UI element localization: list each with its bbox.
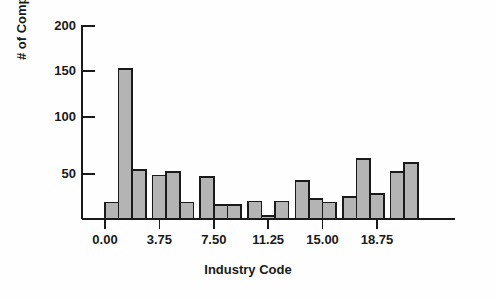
histogram-bar [227,205,241,219]
x-tick-label: 15.00 [306,232,339,247]
histogram-bar [357,159,371,218]
histogram-bar [370,194,384,218]
histogram-bar [153,175,167,218]
x-tick-label: 0.00 [92,232,117,247]
x-tick-label: 18.75 [361,232,394,247]
x-tick-label: 3.75 [147,232,172,247]
histogram-bar [343,197,357,219]
histogram-bar [200,177,214,218]
histogram-figure: # of Companies 200 150 100 50 0.003.757.… [0,0,496,300]
histogram-bar [275,201,289,218]
x-axis-label: Industry Code [0,262,496,277]
x-tick-label: 7.50 [201,232,226,247]
histogram-bar [248,201,262,218]
histogram-bar [391,172,405,219]
histogram-bar [214,205,228,219]
histogram-bar [166,172,180,219]
histogram-bar [180,202,194,218]
histogram-bar [404,163,418,219]
y-tick-marks [82,26,96,174]
histogram-bar [309,199,323,219]
histogram-bar [132,170,146,219]
bars-layer [105,69,418,218]
histogram-bar [105,202,119,218]
histogram-plot [0,0,496,300]
histogram-bar [119,69,133,218]
histogram-bar [295,181,309,219]
x-tick-label: 11.25 [252,232,284,247]
histogram-bar [323,202,337,218]
x-tick-marks [105,219,377,230]
